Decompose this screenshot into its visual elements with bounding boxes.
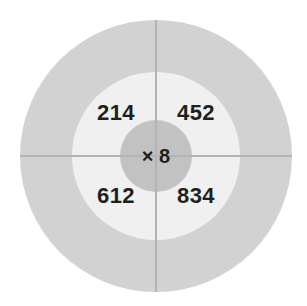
center-operator-label: × 8 (120, 146, 192, 166)
quadrant-value-bottom-right: 834 (166, 185, 226, 207)
multiplication-wheel-figure: 214 452 612 834 × 8 (0, 0, 307, 306)
quadrant-value-top-right: 452 (166, 102, 226, 124)
quadrant-value-bottom-left: 612 (86, 185, 146, 207)
quadrant-value-top-left: 214 (86, 102, 146, 124)
